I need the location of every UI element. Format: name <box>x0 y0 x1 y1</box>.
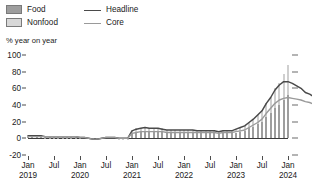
x-tick-mark <box>236 156 237 160</box>
y-tick-label: 20 <box>12 117 21 126</box>
line-swatch-icon <box>84 23 101 24</box>
line-swatch-icon <box>84 10 101 11</box>
y-tick-label: 0 <box>16 134 21 143</box>
x-tick-label: Jul <box>257 161 267 171</box>
line-layer <box>28 55 288 155</box>
x-tick-year: 2020 <box>71 171 89 181</box>
x-tick-month: Jan <box>125 161 138 170</box>
x-tick-year: 2023 <box>227 171 245 181</box>
x-tick-label: Jan2024 <box>279 161 297 181</box>
legend-label-food: Food <box>27 5 46 14</box>
x-tick-label: Jan2022 <box>175 161 193 181</box>
bar-swatch-icon <box>6 5 22 14</box>
x-tick-mark <box>158 156 159 160</box>
x-tick-mark <box>210 156 211 160</box>
legend-label-headline: Headline <box>106 5 138 14</box>
legend-column-lines: Headline Core <box>84 3 138 29</box>
y-tick-label: 80 <box>12 67 21 76</box>
x-tick-month: Jan <box>281 161 294 170</box>
x-axis: Jan2019JulJan2020JulJan2021JulJan2022Jul… <box>28 156 288 188</box>
x-tick-month: Jan <box>21 161 34 170</box>
x-tick-month: Jul <box>205 161 215 170</box>
y-tick-mark-right <box>292 71 298 72</box>
x-tick-mark <box>262 156 263 160</box>
x-tick-month: Jul <box>49 161 59 170</box>
y-tick-mark <box>22 71 26 72</box>
line-core <box>28 98 312 140</box>
y-tick-mark <box>22 55 26 56</box>
y-tick-mark <box>22 121 26 122</box>
x-tick-label: Jul <box>205 161 215 171</box>
y-tick-mark <box>22 138 26 139</box>
x-tick-mark <box>288 156 289 160</box>
y-tick-label: 60 <box>12 84 21 93</box>
x-tick-month: Jul <box>257 161 267 170</box>
legend-item-nonfood: Nonfood <box>6 16 58 29</box>
y-tick-mark <box>22 88 26 89</box>
y-tick-mark-right <box>292 55 298 56</box>
x-tick-mark <box>28 156 29 160</box>
x-tick-month: Jan <box>229 161 242 170</box>
y-tick-mark-right <box>292 121 298 122</box>
x-tick-mark <box>54 156 55 160</box>
y-tick-mark <box>22 155 26 156</box>
x-tick-month: Jan <box>177 161 190 170</box>
plot-area <box>28 55 288 155</box>
y-axis: 100806040200-20 <box>0 46 26 161</box>
x-tick-label: Jul <box>49 161 59 171</box>
y-axis-title: % year on year <box>6 36 57 45</box>
y-tick-mark <box>22 105 26 106</box>
x-tick-label: Jan2020 <box>71 161 89 181</box>
legend-item-food: Food <box>6 3 58 16</box>
y-tick-label: -20 <box>9 151 21 160</box>
y-tick-mark-right <box>292 155 298 156</box>
x-tick-year: 2021 <box>123 171 141 181</box>
y-tick-label: 40 <box>12 101 21 110</box>
y-tick-mark-right <box>292 88 298 89</box>
x-tick-mark <box>106 156 107 160</box>
legend-label-core: Core <box>106 18 124 27</box>
legend-label-nonfood: Nonfood <box>27 18 58 27</box>
x-tick-label: Jan2023 <box>227 161 245 181</box>
bar-swatch-icon <box>6 18 22 27</box>
chart-legend: Food Nonfood Headline Core <box>6 3 176 29</box>
x-tick-month: Jul <box>153 161 163 170</box>
x-tick-label: Jan2019 <box>19 161 37 181</box>
legend-item-headline: Headline <box>84 3 138 16</box>
y-tick-label: 100 <box>7 51 21 60</box>
y-tick-mark-right <box>292 138 298 139</box>
chart-root: Food Nonfood Headline Core % year on yea… <box>0 0 312 189</box>
x-tick-label: Jul <box>101 161 111 171</box>
y-tick-mark-right <box>292 105 298 106</box>
x-tick-year: 2019 <box>19 171 37 181</box>
x-tick-mark <box>184 156 185 160</box>
x-tick-label: Jul <box>153 161 163 171</box>
legend-column-bars: Food Nonfood <box>6 3 58 29</box>
x-tick-month: Jul <box>101 161 111 170</box>
x-tick-mark <box>132 156 133 160</box>
x-tick-mark <box>80 156 81 160</box>
x-tick-month: Jan <box>73 161 86 170</box>
x-tick-label: Jan2021 <box>123 161 141 181</box>
x-tick-year: 2024 <box>279 171 297 181</box>
legend-item-core: Core <box>84 16 138 29</box>
x-tick-year: 2022 <box>175 171 193 181</box>
